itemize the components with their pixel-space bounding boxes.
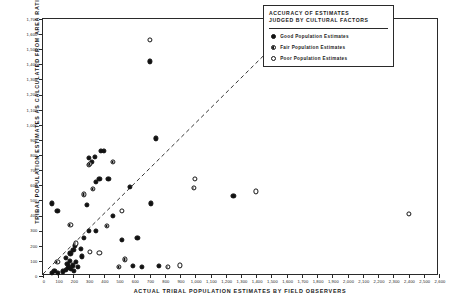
data-point (135, 236, 140, 241)
x-tick: 1,300 (241, 274, 242, 278)
x-tick: 2,600 (439, 274, 440, 278)
data-point (127, 184, 132, 189)
data-point (88, 249, 93, 254)
x-tick: 2,500 (424, 274, 425, 278)
data-point (88, 162, 93, 167)
x-tick: 600 (134, 274, 135, 278)
data-point (254, 189, 259, 194)
x-tick-label: 2,500 (419, 279, 430, 284)
x-tick: 1,700 (302, 274, 303, 278)
legend-box: ACCURACY OF ESTIMATES JUDGED BY CULTURAL… (263, 5, 394, 67)
data-point (73, 241, 78, 246)
data-point (79, 254, 84, 259)
x-tick-label: 2,000 (343, 279, 354, 284)
x-tick: 2,100 (363, 274, 364, 278)
data-point (191, 185, 196, 190)
x-tick-label: 1,100 (206, 279, 217, 284)
data-point (147, 59, 152, 64)
data-point (106, 177, 111, 182)
y-tick-label: 200 (30, 244, 37, 249)
data-point (101, 149, 106, 154)
x-tick-label: 1,700 (297, 279, 308, 284)
data-point (50, 201, 55, 206)
data-point (68, 222, 73, 227)
data-point (104, 224, 109, 229)
data-point (82, 192, 87, 197)
data-point (91, 186, 96, 191)
data-point (78, 246, 83, 251)
x-tick: 2,200 (378, 274, 379, 278)
legend-item-fair[interactable]: Fair Population Estimates (269, 45, 388, 50)
data-point (55, 259, 60, 264)
x-tick-label: 2,600 (435, 279, 446, 284)
y-tick: 100 (39, 261, 43, 262)
x-tick: 1,600 (287, 274, 288, 278)
data-point (117, 264, 122, 269)
x-tick: 1,200 (226, 274, 227, 278)
x-tick-label: 2,200 (374, 279, 385, 284)
data-point (110, 159, 115, 164)
x-tick-label: 1,900 (328, 279, 339, 284)
data-point (177, 263, 182, 268)
scatter-plot-figure: 01002003004005006007008009001,0001,1001,… (0, 0, 456, 308)
data-point (120, 208, 125, 213)
x-tick: 1,500 (271, 274, 272, 278)
x-tick: 700 (150, 274, 151, 278)
y-tick-label: 100 (30, 259, 37, 264)
x-tick-label: 1,500 (267, 279, 278, 284)
data-point (120, 237, 125, 242)
x-tick-label: 1,400 (252, 279, 263, 284)
x-tick: 1,800 (317, 274, 318, 278)
legend-item-label: Fair Population Estimates (280, 45, 345, 50)
data-point (231, 193, 236, 198)
x-tick: 1,100 (211, 274, 212, 278)
y-axis-title: TRIBAL POPULATION ESTIMATES AS CALCULATE… (34, 0, 40, 232)
x-tick-label: 500 (117, 279, 124, 284)
data-point (82, 236, 87, 241)
x-tick: 500 (119, 274, 120, 278)
x-tick: 1,900 (332, 274, 333, 278)
x-tick-label: 100 (56, 279, 63, 284)
data-point (71, 248, 76, 253)
data-point (97, 250, 102, 255)
data-point (130, 264, 135, 269)
data-point (55, 208, 60, 213)
legend-item-good[interactable]: Good Population Estimates (269, 34, 388, 39)
x-tick: 2,400 (409, 274, 410, 278)
x-tick-label: 900 (177, 279, 184, 284)
x-tick-label: 2,100 (358, 279, 369, 284)
x-tick-label: 300 (86, 279, 93, 284)
x-tick-label: 600 (132, 279, 139, 284)
good-marker-icon (271, 34, 276, 39)
x-tick-label: 400 (101, 279, 108, 284)
x-tick: 800 (165, 274, 166, 278)
legend-item-poor[interactable]: Poor Population Estimates (269, 56, 388, 61)
x-axis-title: ACTUAL TRIBAL POPULATION ESTIMATES BY FI… (42, 288, 438, 294)
x-tick: 200 (73, 274, 74, 278)
data-point (193, 177, 198, 182)
data-point (93, 228, 98, 233)
x-tick-label: 1,000 (191, 279, 202, 284)
data-point (86, 228, 91, 233)
x-tick: 300 (89, 274, 90, 278)
data-point (123, 257, 128, 262)
legend-title: ACCURACY OF ESTIMATES JUDGED BY CULTURAL… (269, 10, 388, 29)
x-tick: 1,000 (195, 274, 196, 278)
data-point (165, 264, 170, 269)
x-tick-label: 700 (147, 279, 154, 284)
data-point (92, 154, 97, 159)
x-tick: 900 (180, 274, 181, 278)
x-tick-label: 0 (43, 279, 45, 284)
data-point (110, 213, 115, 218)
x-tick-label: 200 (71, 279, 78, 284)
data-point (139, 264, 144, 269)
legend-items: Good Population EstimatesFair Population… (269, 34, 388, 61)
x-tick: 2,000 (348, 274, 349, 278)
data-point (149, 201, 154, 206)
x-tick-label: 1,800 (313, 279, 324, 284)
y-tick: 200 (39, 246, 43, 247)
data-point (147, 38, 152, 43)
fair-marker-icon (271, 45, 276, 50)
x-tick-label: 1,600 (282, 279, 293, 284)
data-point (156, 264, 161, 269)
